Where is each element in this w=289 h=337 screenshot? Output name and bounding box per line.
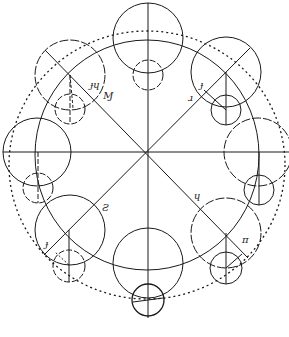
- label-upper-right-2: ɹ: [187, 92, 193, 103]
- label-upper-right-1: ɟ: [198, 79, 204, 90]
- big-circle-lower-left: [35, 195, 105, 265]
- label-lower-left-2: ɟ: [43, 238, 49, 249]
- label-upper-left-2: Ɱ: [103, 90, 114, 101]
- upper-right-spoke: [204, 90, 226, 110]
- label-lower-right-1: ɥ: [194, 190, 200, 201]
- geometric-diagram: ɟɥ Ɱ ɟ ɹ Ƨ ɟ ɥ π: [0, 0, 289, 337]
- label-lower-right-2: π: [241, 234, 249, 245]
- label-upper-left-1: ɟɥ: [88, 79, 100, 90]
- lower-right-spoke: [226, 254, 242, 268]
- label-lower-left-1: Ƨ: [102, 202, 109, 213]
